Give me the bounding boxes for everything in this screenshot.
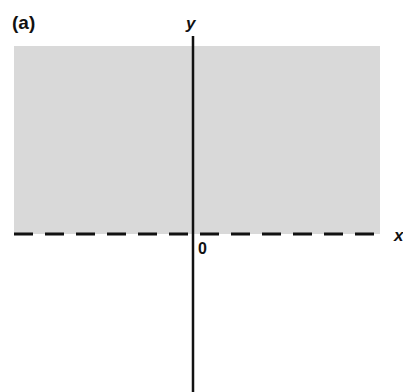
shaded-region [14, 46, 380, 234]
